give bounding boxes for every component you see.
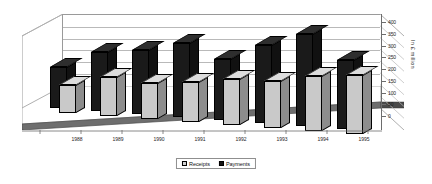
plot-area xyxy=(22,14,382,130)
ytick-label: 0 xyxy=(388,114,391,119)
ytick-label: 400 xyxy=(388,20,396,25)
category-labels: 1988 1989 1990 1991 1992 1993 1994 1995 xyxy=(0,136,420,146)
ytick-label: 150 xyxy=(388,78,396,83)
bar-chart: 400 350 300 250 200 150 100 50 0 In £ mi… xyxy=(0,0,432,184)
bar-receipts-1989 xyxy=(100,77,117,116)
category-axis xyxy=(22,130,404,134)
legend-swatch-receipts-icon xyxy=(182,161,187,166)
ytick-label: 200 xyxy=(388,67,396,72)
ytick-label: 250 xyxy=(388,55,396,60)
bar-receipts-1995 xyxy=(346,75,363,134)
bar-receipts-1993 xyxy=(264,81,281,128)
ytick-label: 50 xyxy=(388,102,393,107)
category-label: 1995 xyxy=(349,136,379,142)
ytick-label: 300 xyxy=(388,43,396,48)
ytick-label: 100 xyxy=(388,90,396,95)
legend-item-receipts[interactable]: Receipts xyxy=(182,161,210,167)
bar-receipts-1990 xyxy=(141,83,158,119)
bar-receipts-1988 xyxy=(59,85,76,113)
legend-label-payments: Payments xyxy=(226,161,250,167)
category-label: 1989 xyxy=(103,136,133,142)
legend-swatch-payments-icon xyxy=(219,161,224,166)
bars-container xyxy=(22,14,404,130)
y-axis-title: In £ million xyxy=(404,40,416,110)
ytick-label: 350 xyxy=(388,31,396,36)
value-axis: 400 350 300 250 200 150 100 50 0 xyxy=(381,14,385,130)
category-label: 1991 xyxy=(185,136,215,142)
category-label: 1993 xyxy=(267,136,297,142)
legend-label-receipts: Receipts xyxy=(189,161,210,167)
category-label: 1988 xyxy=(62,136,92,142)
bar-receipts-1994 xyxy=(305,76,322,131)
chart-legend: Receipts Payments xyxy=(176,158,256,169)
legend-item-payments[interactable]: Payments xyxy=(219,161,250,167)
bar-receipts-1992 xyxy=(223,79,240,125)
bar-receipts-1991 xyxy=(182,82,199,122)
category-label: 1990 xyxy=(144,136,174,142)
category-label: 1994 xyxy=(308,136,338,142)
category-label: 1992 xyxy=(226,136,256,142)
